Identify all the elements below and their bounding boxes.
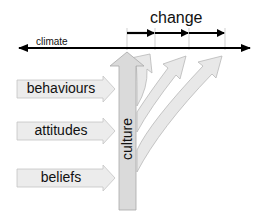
input-label-attitudes: attitudes (20, 122, 102, 138)
climate-label: climate (36, 36, 68, 47)
change-tick-lines (127, 28, 225, 50)
culture-climate-diagram: change climate behaviours attitudes beli… (0, 0, 263, 218)
input-label-behaviours: behaviours (20, 80, 102, 96)
culture-label: culture (119, 112, 135, 166)
diagram-graphics (0, 0, 263, 218)
input-label-beliefs: beliefs (20, 169, 102, 185)
change-label: change (150, 9, 203, 27)
